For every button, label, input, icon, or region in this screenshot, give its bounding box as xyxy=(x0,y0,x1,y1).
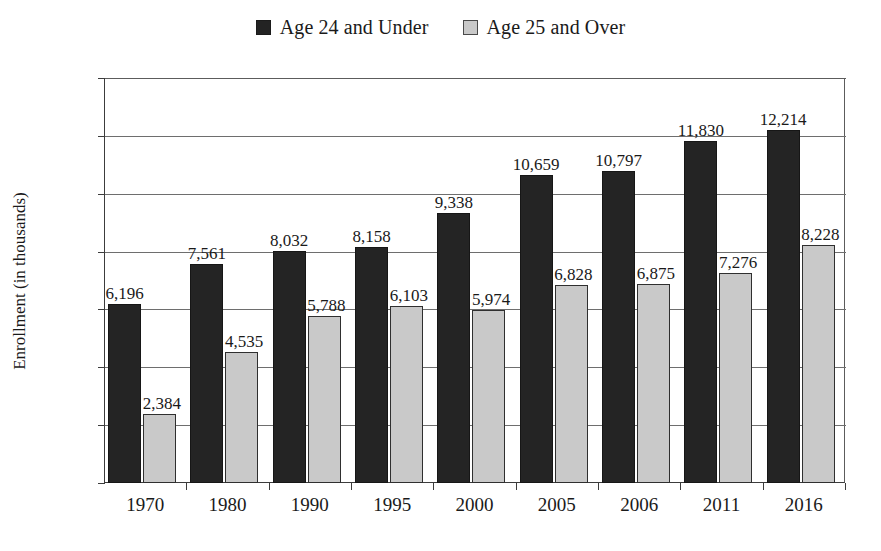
x-axis-tick-mark xyxy=(598,483,599,490)
bar-group: 7,5614,535 xyxy=(186,78,268,483)
x-axis: 197019801990199520002005200620112016 xyxy=(104,483,845,529)
chart-legend: Age 24 and Under Age 25 and Over xyxy=(0,14,881,40)
bar-value-label: 5,974 xyxy=(472,291,510,308)
bar-group: 10,7976,875 xyxy=(598,78,680,483)
x-axis-tick-label: 1980 xyxy=(186,495,268,515)
bar-value-label: 2,384 xyxy=(143,395,181,412)
bar-age-25-and-over[interactable]: 4,535 xyxy=(225,352,258,483)
bar-age-25-and-over[interactable]: 5,974 xyxy=(472,310,505,483)
x-axis-tick-mark xyxy=(186,483,187,490)
x-axis-tick-mark xyxy=(680,483,681,490)
bar-value-label: 6,875 xyxy=(637,265,675,282)
bar-group: 10,6596,828 xyxy=(516,78,598,483)
bar-value-label: 8,158 xyxy=(352,228,390,245)
y-axis-title: Enrollment (in thousands) xyxy=(8,78,32,483)
bar-value-label: 7,561 xyxy=(188,245,226,262)
bar-age-24-and-under[interactable]: 10,797 xyxy=(602,171,635,483)
bar-age-24-and-under[interactable]: 11,830 xyxy=(684,141,717,483)
legend-entry-age-24-and-under: Age 24 and Under xyxy=(256,17,429,37)
x-axis-tick-mark xyxy=(516,483,517,490)
bar-group: 6,1962,384 xyxy=(104,78,186,483)
bar-age-25-and-over[interactable]: 6,103 xyxy=(390,306,423,483)
light-square-icon xyxy=(463,20,478,35)
x-axis-tick-label: 1995 xyxy=(351,495,433,515)
dark-square-icon xyxy=(256,20,271,35)
x-axis-tick-label: 2000 xyxy=(433,495,515,515)
bar-group: 11,8307,276 xyxy=(680,78,762,483)
bar-age-24-and-under[interactable]: 10,659 xyxy=(520,175,553,483)
bar-age-25-and-over[interactable]: 6,875 xyxy=(637,284,670,483)
bar-chart-figure: Age 24 and Under Age 25 and Over Enrollm… xyxy=(0,0,881,551)
legend-entry-age-25-and-over: Age 25 and Over xyxy=(463,17,626,37)
bar-group: 9,3385,974 xyxy=(433,78,515,483)
y-axis-title-text: Enrollment (in thousands) xyxy=(10,192,30,370)
x-axis-tick-mark xyxy=(763,483,764,490)
bar-age-25-and-over[interactable]: 7,276 xyxy=(719,273,752,483)
x-axis-tick-mark xyxy=(433,483,434,490)
bar-age-25-and-over[interactable]: 5,788 xyxy=(308,316,341,483)
bar-series-container: 6,1962,3847,5614,5358,0325,7888,1586,103… xyxy=(104,78,845,483)
bar-value-label: 11,830 xyxy=(678,122,724,139)
bar-age-25-and-over[interactable]: 8,228 xyxy=(802,245,835,483)
x-axis-tick-label: 2006 xyxy=(598,495,680,515)
bar-value-label: 7,276 xyxy=(719,254,757,271)
bar-group: 12,2148,228 xyxy=(763,78,845,483)
bar-age-24-and-under[interactable]: 8,032 xyxy=(273,251,306,483)
bar-value-label: 5,788 xyxy=(307,297,345,314)
bar-age-24-and-under[interactable]: 6,196 xyxy=(108,304,141,483)
legend-label-age-24-and-under: Age 24 and Under xyxy=(280,17,429,37)
bar-value-label: 6,196 xyxy=(105,285,143,302)
bar-age-24-and-under[interactable]: 12,214 xyxy=(767,130,800,483)
bar-value-label: 6,103 xyxy=(390,287,428,304)
x-axis-tick-label: 2016 xyxy=(763,495,845,515)
bar-value-label: 8,032 xyxy=(270,232,308,249)
bar-group: 8,1586,103 xyxy=(351,78,433,483)
x-axis-tick-label: 2005 xyxy=(516,495,598,515)
x-axis-tick-mark xyxy=(269,483,270,490)
bar-value-label: 4,535 xyxy=(225,333,263,350)
legend-label-age-25-and-over: Age 25 and Over xyxy=(487,17,626,37)
bar-value-label: 10,659 xyxy=(513,156,560,173)
x-axis-tick-label: 1990 xyxy=(269,495,351,515)
bar-value-label: 10,797 xyxy=(595,152,642,169)
bar-age-24-and-under[interactable]: 9,338 xyxy=(437,213,470,483)
x-axis-tick-label: 1970 xyxy=(104,495,186,515)
bar-value-label: 9,338 xyxy=(435,194,473,211)
bar-age-24-and-under[interactable]: 7,561 xyxy=(190,264,223,483)
x-axis-tick-mark xyxy=(845,483,846,490)
x-axis-tick-label: 2011 xyxy=(680,495,762,515)
bar-age-25-and-over[interactable]: 6,828 xyxy=(555,285,588,483)
bar-age-24-and-under[interactable]: 8,158 xyxy=(355,247,388,483)
x-axis-tick-mark xyxy=(351,483,352,490)
bar-value-label: 8,228 xyxy=(801,226,839,243)
bar-value-label: 12,214 xyxy=(760,111,807,128)
bar-age-25-and-over[interactable]: 2,384 xyxy=(143,414,176,483)
bar-value-label: 6,828 xyxy=(554,266,592,283)
bar-group: 8,0325,788 xyxy=(269,78,351,483)
